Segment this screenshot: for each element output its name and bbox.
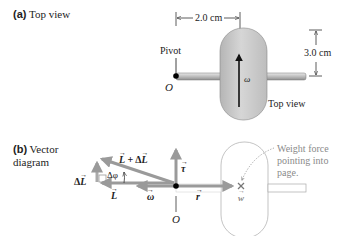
panel-b-prefix: (b) [13,143,27,155]
height-dimension-label: 3.0 cm [304,47,331,59]
panel-a-title: (a) Top view [13,8,70,20]
pivot-label: Pivot [160,45,181,57]
panel-b-title: (b) Vector [13,143,58,155]
delta-L-label: ΔL [74,176,86,188]
panel-b-label-line1: Vector [30,143,59,155]
omega-label-a: ω [244,73,250,85]
right-angle-marker [99,175,106,182]
panel-b-label-line2: diagram [13,156,49,168]
origin-label-b: O [172,213,180,225]
pivot-point [173,73,179,79]
axle-outline [268,184,306,192]
L-label: L [111,190,117,202]
delta-phi-arc [124,172,125,183]
omega-vector-label: ω [147,191,154,203]
origin-label-a: O [165,81,173,93]
diagram-canvas [0,0,342,236]
width-dimension-label: 2.0 cm [195,12,222,24]
delta-phi-label: Δφ [107,169,118,181]
w-label: w [238,192,244,204]
L-plus-dL-label: L + ΔL [119,154,148,166]
panel-a-label: Top view [29,8,70,20]
weight-note-line3: page. [277,167,298,179]
panel-a-prefix: (a) [13,8,26,20]
weight-note-line2: pointing into [277,155,328,167]
r-label: r [196,191,200,203]
weight-note-leader [242,148,274,180]
origin-point [173,183,179,189]
top-view-caption: Top view [268,98,305,110]
tau-label: τ [181,163,185,175]
weight-note-line1: Weight force [277,143,329,155]
